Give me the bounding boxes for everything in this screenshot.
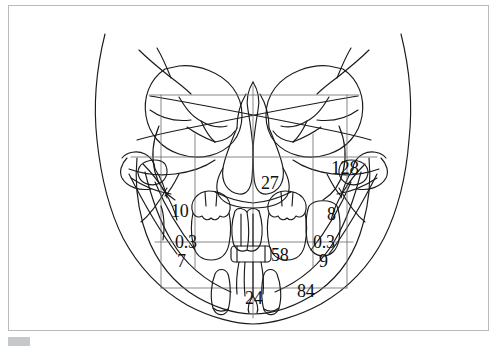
orbit-left <box>145 66 242 157</box>
annotation-10-left: 10 <box>171 202 189 220</box>
orbit-right <box>266 66 363 157</box>
annotation-7-left: 7 <box>177 252 186 270</box>
annotation-8-right: 8 <box>327 205 336 223</box>
cephalometric-tracing <box>9 6 489 331</box>
annotation-0-3-right: 0.3 <box>313 233 335 251</box>
annotation-24: 24 <box>245 289 263 307</box>
annotation-84: 84 <box>297 282 315 300</box>
caption-marker <box>8 337 30 346</box>
annotation-58: 58 <box>271 246 289 264</box>
supraorbital-lines <box>139 48 369 94</box>
caption-strip <box>8 336 478 350</box>
figure-frame: 128 27 10 8 0.3 0.3 7 9 58 84 24 <box>8 5 489 331</box>
reference-planes <box>131 95 377 288</box>
annotation-128: 128 <box>331 158 359 177</box>
annotation-27: 27 <box>261 174 279 192</box>
annotation-9-right: 9 <box>319 252 328 270</box>
annotation-0-3-left: 0.3 <box>175 233 197 251</box>
